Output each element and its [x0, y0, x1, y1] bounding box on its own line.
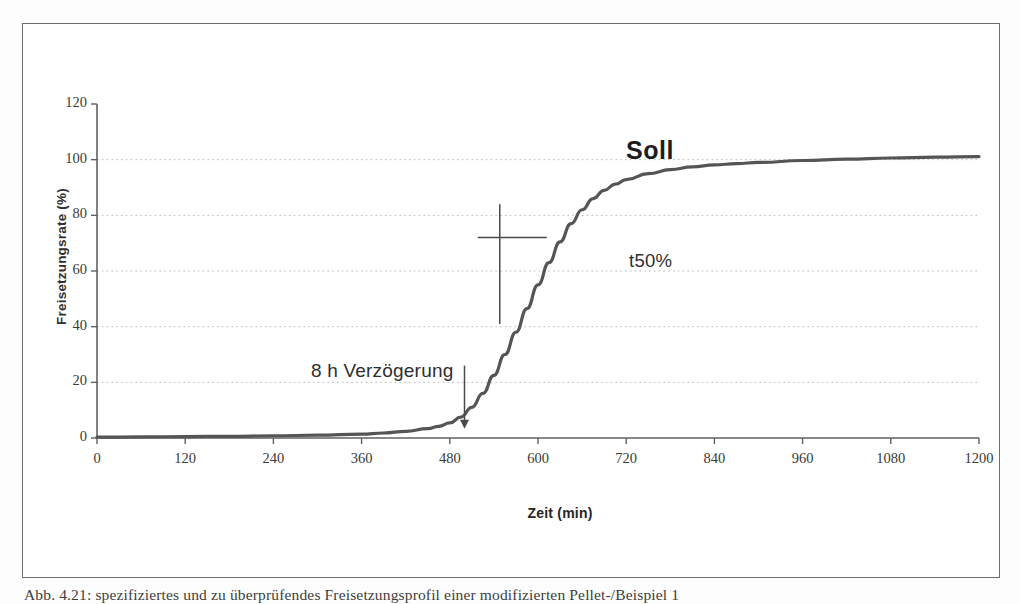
axis-ticks [91, 104, 979, 444]
annotation-t50: t50% [629, 250, 672, 272]
annotation-soll: Soll [626, 136, 674, 165]
x-tick-label: 1200 [949, 450, 1009, 467]
x-tick-label: 600 [508, 450, 568, 467]
x-tick-label: 360 [332, 450, 392, 467]
y-tick-label: 0 [41, 428, 87, 445]
x-tick-label: 0 [67, 450, 127, 467]
x-tick-label: 240 [243, 450, 303, 467]
y-tick-label: 20 [41, 372, 87, 389]
chart-markers [460, 204, 547, 429]
x-axis-title: Zeit (min) [119, 505, 1001, 521]
release-profile-chart [23, 24, 999, 577]
y-tick-label: 60 [41, 261, 87, 278]
figure-frame: Freisetzungsrate (%) Zeit (min) 02040608… [22, 23, 1000, 578]
x-tick-label: 720 [596, 450, 656, 467]
y-tick-label: 40 [41, 317, 87, 334]
curve-soll [97, 157, 979, 438]
annotation-delay: 8 h Verzögerung [311, 360, 453, 382]
figure-caption: Abb. 4.21: spezifiziertes und zu überprü… [24, 586, 1004, 604]
y-tick-label: 80 [41, 205, 87, 222]
y-tick-label: 120 [41, 94, 87, 111]
x-tick-label: 1080 [861, 450, 921, 467]
x-tick-label: 120 [155, 450, 215, 467]
x-tick-label: 840 [684, 450, 744, 467]
x-tick-label: 960 [773, 450, 833, 467]
y-tick-label: 100 [41, 150, 87, 167]
x-tick-label: 480 [420, 450, 480, 467]
document-page: Freisetzungsrate (%) Zeit (min) 02040608… [0, 0, 1020, 604]
gridlines [97, 160, 979, 383]
